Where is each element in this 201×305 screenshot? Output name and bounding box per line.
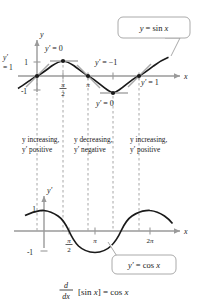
region-2-line2: y′ positive [130,145,160,154]
svg-text:2: 2 [61,90,65,98]
region-0-line1: y increasing, [22,135,59,144]
top-xtick-label-pi: π [86,81,90,89]
top-y-axis-label: y [39,30,44,39]
bottom-x-axis [14,228,180,234]
svg-text:π: π [67,237,71,245]
top-ytick-label-neg1: -1 [21,87,27,96]
point-3pi-2 [111,91,115,95]
svg-text:= 1: = 1 [3,63,13,72]
slope-annotation-pi: y′ = −1 [94,58,117,67]
callout-y-prime-equals-cos-x: y′ = cos x [108,242,176,274]
caption-derivative-numerator: d [64,281,69,290]
region-0-line2: y′ positive [22,145,52,154]
figure-caption: d dx [sin x] = cos x [60,281,129,301]
top-xtick-label-pi-2: π 2 [60,81,67,98]
sine-curve [18,57,169,93]
figure-svg: y x 1 -1 π 2 π [0,0,201,305]
callout-bottom-text: y′ = cos x [127,260,160,270]
bottom-y-axis-label: y′ [46,186,53,195]
svg-text:π: π [61,81,65,89]
region-2-line1: y increasing, [130,135,167,144]
bottom-xtick-label-2pi: 2π [146,237,154,245]
point-0 [35,74,39,78]
point-pi-2 [61,59,65,63]
callout-top-text: y = sin x [139,23,169,33]
slope-annotation-2pi: y′ = 1 [140,78,159,87]
slope-annotation-3pi-2: y′ = 0 [95,99,114,108]
region-1-line1: y decreasing, [74,135,113,144]
svg-text:2: 2 [67,246,71,254]
region-annotations: y increasing, y′ positive y decreasing, … [22,135,167,154]
caption-expression: [sin x] = cos x [78,287,129,297]
caption-derivative-denominator: dx [62,292,70,301]
slope-annotation-0: y′ = 1 [2,53,13,72]
bottom-xtick-label-pi: π [93,237,97,245]
bottom-x-axis-label: x [183,227,188,236]
svg-text:y′: y′ [2,53,8,62]
bottom-chart: y′ x 1 -1 π 2 π 2π [14,186,188,257]
bottom-ytick-label-neg1: -1 [27,248,33,257]
region-1-line2: y′ negative [74,145,106,154]
calculus-figure: y x 1 -1 π 2 π [0,0,201,305]
callout-y-equals-sin-x: y = sin x [118,17,190,56]
bottom-xtick-label-pi-2: π 2 [66,237,73,254]
top-x-axis-label: x [183,72,188,81]
top-chart: y x 1 -1 π 2 π [2,30,188,108]
top-ytick-label-1: 1 [24,58,28,67]
slope-annotation-pi-2: y′ = 0 [44,44,63,53]
point-pi [86,74,90,78]
top-y-axis [34,40,39,92]
bottom-y-axis [41,196,46,248]
